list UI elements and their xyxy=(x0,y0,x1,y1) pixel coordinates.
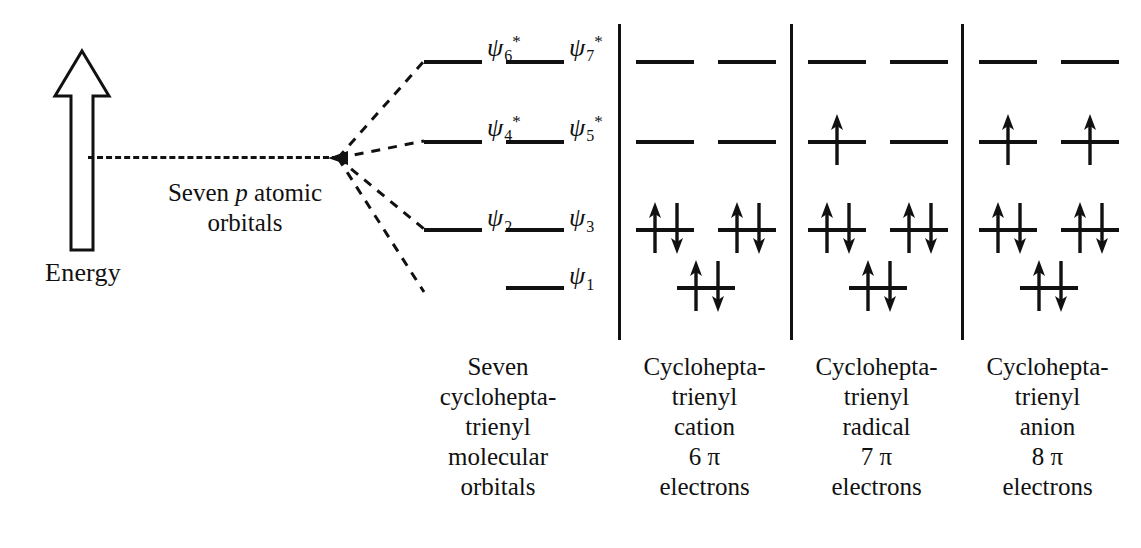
electron-spin-up-arrow-icon xyxy=(645,201,665,255)
electron-spin-up-arrow-icon xyxy=(817,201,837,255)
electron-spin-up-arrow-icon xyxy=(727,201,747,255)
electron-spin-down-arrow-icon xyxy=(921,201,941,255)
electron-spin-up-arrow-icon xyxy=(988,201,1008,255)
caption-cation: Cyclohepta- trienyl cation 6 π electrons xyxy=(612,352,797,502)
mo-label-psi5: ψ5* xyxy=(569,113,603,144)
level-line xyxy=(718,60,776,64)
column-separator-1 xyxy=(618,24,621,340)
energy-axis-label: Energy xyxy=(8,258,158,288)
electron-spin-down-arrow-icon xyxy=(749,201,769,255)
mo-level-line-psi1 xyxy=(506,286,564,290)
ray-to-psi1 xyxy=(338,158,424,292)
caption-anion: Cyclohepta- trienyl anion 8 π electrons xyxy=(955,352,1140,502)
level-line xyxy=(890,60,948,64)
electron-spin-up-arrow-icon xyxy=(858,259,878,313)
mo-diagram-figure: Energy Seven p atomic orbitals ψ6* ψ7* ψ… xyxy=(0,0,1141,548)
column-separator-3 xyxy=(961,24,964,340)
level-line xyxy=(979,60,1037,64)
electron-spin-up-arrow-icon xyxy=(899,201,919,255)
electron-spin-up-arrow-icon xyxy=(686,259,706,313)
ray-to-psi2 xyxy=(338,158,424,229)
level-line xyxy=(1061,60,1119,64)
pao-caption-line2: orbitals xyxy=(208,209,283,236)
mo-level-line-psi2 xyxy=(424,228,482,232)
level-line xyxy=(636,140,694,144)
mo-label-psi3: ψ3 xyxy=(569,205,594,235)
fan-vertex-marker xyxy=(328,151,348,165)
mo-level-line-psi5 xyxy=(506,140,564,144)
mo-level-line-psi6 xyxy=(424,60,482,64)
electron-spin-up-arrow-icon xyxy=(1070,201,1090,255)
electron-spin-up-arrow-icon xyxy=(1080,113,1100,167)
level-line xyxy=(808,60,866,64)
electron-spin-up-arrow-icon xyxy=(998,113,1018,167)
caption-radical: Cyclohepta- trienyl radical 7 π electron… xyxy=(784,352,969,502)
electron-spin-down-arrow-icon xyxy=(708,259,728,313)
orbital-correlation-rays xyxy=(320,30,440,300)
electron-spin-down-arrow-icon xyxy=(1051,259,1071,313)
electron-spin-down-arrow-icon xyxy=(1010,201,1030,255)
mo-label-psi1: ψ1 xyxy=(569,263,594,293)
mo-label-psi7: ψ7* xyxy=(569,33,603,64)
mo-level-line-psi7 xyxy=(506,60,564,64)
electron-spin-up-arrow-icon xyxy=(1029,259,1049,313)
level-line xyxy=(718,140,776,144)
electron-spin-down-arrow-icon xyxy=(880,259,900,313)
mo-level-line-psi4 xyxy=(424,140,482,144)
caption-mo-set: Seven cyclohepta- trienyl molecular orbi… xyxy=(398,352,598,502)
electron-spin-down-arrow-icon xyxy=(667,201,687,255)
level-line xyxy=(890,140,948,144)
energy-axis-arrow-icon xyxy=(52,48,112,253)
level-line xyxy=(636,60,694,64)
electron-spin-down-arrow-icon xyxy=(839,201,859,255)
pao-caption-line1: Seven p atomic xyxy=(168,179,322,206)
electron-spin-up-arrow-icon xyxy=(827,113,847,167)
p-atomic-orbital-level-line xyxy=(88,156,338,159)
mo-level-line-psi3 xyxy=(506,228,564,232)
electron-spin-down-arrow-icon xyxy=(1092,201,1112,255)
column-separator-2 xyxy=(790,24,793,340)
